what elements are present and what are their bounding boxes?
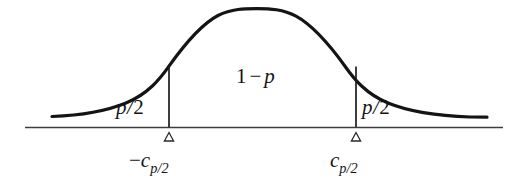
left-tail-numerator: p	[116, 95, 127, 119]
left-critical-value-label: −cp/2	[129, 150, 169, 175]
distribution-plot-svg	[0, 0, 510, 185]
central-minus-sign: −	[247, 64, 265, 88]
right-tail-area-label: p/2	[362, 97, 390, 118]
right-tail-numerator: p	[362, 95, 373, 119]
left-tail-area-label: p/2	[116, 97, 144, 118]
right-critical-symbol: c	[330, 148, 339, 172]
right-tail-denominator: 2	[379, 95, 390, 119]
central-one: 1	[236, 64, 247, 88]
left-delta-tick-icon	[164, 133, 173, 142]
right-delta-tick-icon	[351, 133, 360, 142]
central-region-label: 1−p	[236, 66, 275, 87]
right-critical-value-label: cp/2	[330, 150, 358, 175]
left-critical-minus-sign: −	[129, 148, 141, 172]
left-tail-denominator: 2	[133, 95, 144, 119]
left-critical-subscript: p/2	[150, 160, 169, 176]
normal-distribution-figure: p/2 1−p p/2 −cp/2 cp/2	[0, 0, 510, 185]
left-critical-symbol: c	[141, 148, 150, 172]
right-critical-subscript: p/2	[339, 160, 358, 176]
central-p: p	[264, 64, 275, 88]
